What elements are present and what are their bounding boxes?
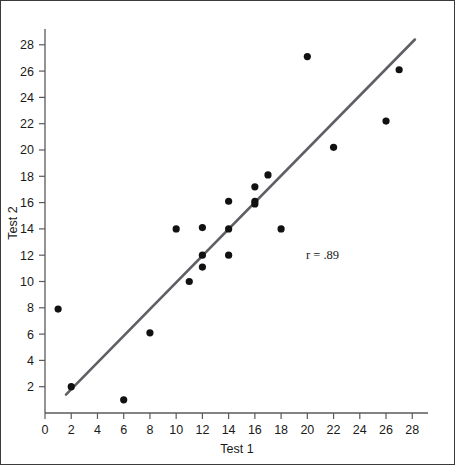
x-tick-label: 28 bbox=[405, 423, 419, 437]
data-point bbox=[225, 252, 232, 259]
x-tick-label: 16 bbox=[248, 423, 262, 437]
y-tick-label: 2 bbox=[27, 380, 34, 394]
y-tick-label: 8 bbox=[27, 301, 34, 315]
y-tick-label: 6 bbox=[27, 328, 34, 342]
x-tick-label: 18 bbox=[274, 423, 288, 437]
data-point bbox=[225, 198, 232, 205]
y-tick-label: 24 bbox=[20, 91, 34, 105]
data-point bbox=[146, 329, 153, 336]
x-tick-label: 22 bbox=[327, 423, 341, 437]
regression-line-segment bbox=[66, 40, 415, 395]
y-tick-label: 14 bbox=[20, 222, 34, 236]
regression-line bbox=[66, 40, 415, 395]
x-axis-ticks: 0246810121416182022242628 bbox=[42, 413, 420, 437]
y-tick-label: 10 bbox=[20, 275, 34, 289]
x-axis-title: Test 1 bbox=[220, 442, 253, 456]
y-tick-label: 12 bbox=[20, 249, 34, 263]
data-point bbox=[225, 225, 232, 232]
x-tick-label: 4 bbox=[94, 423, 101, 437]
x-tick-label: 26 bbox=[379, 423, 393, 437]
data-point bbox=[396, 66, 403, 73]
y-tick-label: 16 bbox=[20, 196, 34, 210]
x-tick-label: 12 bbox=[195, 423, 209, 437]
x-tick-label: 8 bbox=[146, 423, 153, 437]
x-tick-label: 6 bbox=[120, 423, 127, 437]
y-tick-label: 18 bbox=[20, 170, 34, 184]
data-point bbox=[277, 225, 284, 232]
data-point bbox=[173, 225, 180, 232]
x-tick-label: 20 bbox=[300, 423, 314, 437]
data-point bbox=[199, 224, 206, 231]
data-point bbox=[120, 396, 127, 403]
data-point bbox=[199, 263, 206, 270]
data-point bbox=[186, 278, 193, 285]
y-tick-label: 22 bbox=[20, 117, 34, 131]
data-point bbox=[330, 144, 337, 151]
data-point bbox=[304, 53, 311, 60]
y-tick-label: 28 bbox=[20, 38, 34, 52]
y-axis-title: Test 2 bbox=[6, 206, 20, 239]
y-tick-label: 20 bbox=[20, 143, 34, 157]
x-tick-label: 14 bbox=[222, 423, 236, 437]
x-tick-label: 2 bbox=[68, 423, 75, 437]
y-axis-ticks: 246810121416182022242628 bbox=[20, 38, 45, 394]
data-point bbox=[251, 198, 258, 205]
correlation-annotation: r = .89 bbox=[306, 248, 339, 262]
scatter-plot: 246810121416182022242628 024681012141618… bbox=[1, 1, 455, 465]
data-point bbox=[68, 383, 75, 390]
data-point bbox=[55, 306, 62, 313]
x-tick-label: 0 bbox=[42, 423, 49, 437]
y-tick-label: 26 bbox=[20, 65, 34, 79]
figure-panel: 246810121416182022242628 024681012141618… bbox=[0, 0, 455, 465]
data-point bbox=[251, 183, 258, 190]
x-tick-label: 24 bbox=[353, 423, 367, 437]
data-point bbox=[264, 171, 271, 178]
x-tick-label: 10 bbox=[169, 423, 183, 437]
data-point bbox=[382, 117, 389, 124]
y-tick-label: 4 bbox=[27, 354, 34, 368]
data-point bbox=[199, 252, 206, 259]
